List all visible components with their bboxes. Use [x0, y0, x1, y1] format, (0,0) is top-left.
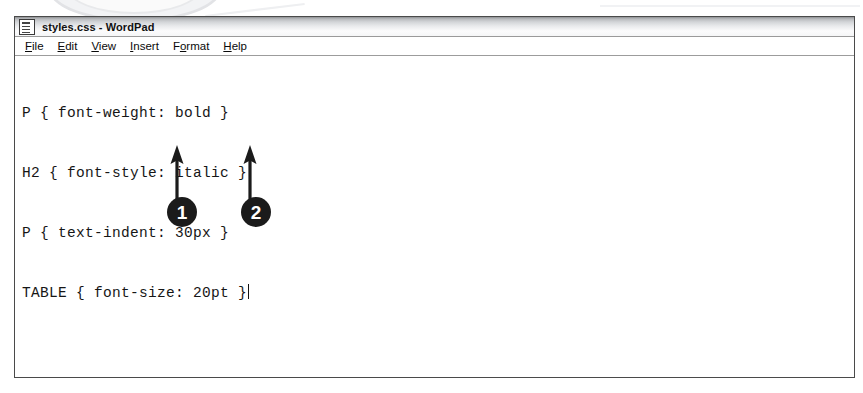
- menu-label-format-post: rmat: [186, 40, 209, 52]
- wordpad-window: styles.css - WordPad File Edit View Inse…: [14, 16, 855, 378]
- editor-area[interactable]: P { font-weight: bold } H2 { font-style:…: [15, 56, 854, 376]
- menu-item-help[interactable]: Help: [216, 40, 254, 52]
- document-icon: [19, 19, 35, 35]
- menu-item-view[interactable]: View: [84, 40, 123, 52]
- menu-item-file[interactable]: File: [18, 40, 51, 52]
- window-title: styles.css - WordPad: [42, 21, 154, 33]
- document-text[interactable]: P { font-weight: bold } H2 { font-style:…: [22, 63, 854, 343]
- menu-label-format-pre: F: [173, 40, 180, 52]
- callout-1-number: 1: [177, 203, 188, 222]
- callout-2-badge: 2: [241, 197, 271, 227]
- menu-item-edit[interactable]: Edit: [51, 40, 85, 52]
- text-line-2: H2 { font-style: italic }: [22, 163, 854, 183]
- scan-streak-left: [205, 3, 304, 17]
- callout-1-badge: 1: [167, 197, 197, 227]
- text-line-4: TABLE { font-size: 20pt }: [22, 283, 854, 303]
- title-bar[interactable]: styles.css - WordPad: [15, 17, 854, 37]
- scan-streak-right: [600, 5, 860, 7]
- menu-label-edit-post: dit: [65, 40, 77, 52]
- callout-2: 2: [240, 145, 274, 227]
- menu-accel-view: V: [91, 40, 98, 52]
- menu-label-help-post: elp: [232, 40, 247, 52]
- scan-arc-inner: [66, 0, 202, 14]
- menu-accel-file: F: [25, 40, 32, 52]
- text-line-3: P { text-indent: 30px }: [22, 223, 854, 243]
- menu-label-file-post: ile: [32, 40, 44, 52]
- text-line-1: P { font-weight: bold }: [22, 103, 854, 123]
- menu-label-insert-post: nsert: [133, 40, 159, 52]
- menu-label-view-post: iew: [99, 40, 116, 52]
- callout-2-number: 2: [251, 203, 262, 222]
- menu-accel-help: H: [223, 40, 231, 52]
- menu-item-format[interactable]: Format: [166, 40, 216, 52]
- callout-1: 1: [165, 145, 199, 227]
- menu-bar: File Edit View Insert Format Help: [15, 37, 854, 56]
- menu-item-insert[interactable]: Insert: [123, 40, 166, 52]
- text-caret: [248, 284, 249, 299]
- text-line-4-content: TABLE { font-size: 20pt }: [22, 285, 247, 301]
